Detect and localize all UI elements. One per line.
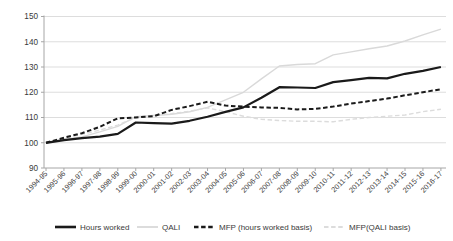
series-line-qali [46, 29, 441, 143]
y-tick-label: 130 [24, 63, 38, 72]
legend-label: QALI [162, 223, 180, 232]
legend-label: Hours worked [80, 223, 129, 232]
y-tick-label: 100 [24, 139, 38, 148]
y-tick-label: 140 [24, 38, 38, 47]
chart-svg: 901001101201301401501994-951995-961996-9… [0, 0, 453, 241]
legend-label: MFP(QALI basis) [349, 223, 411, 232]
y-tick-label: 120 [24, 88, 38, 97]
y-tick-label: 150 [24, 12, 38, 21]
legend-label: MFP (hours worked basis) [219, 223, 313, 232]
series-line-mfp-qali-basis- [46, 108, 441, 143]
series-line-hours-worked [46, 67, 441, 143]
y-tick-label: 110 [25, 113, 38, 122]
mfp-line-chart: 901001101201301401501994-951995-961996-9… [0, 0, 453, 241]
y-tick-label: 90 [29, 164, 39, 173]
